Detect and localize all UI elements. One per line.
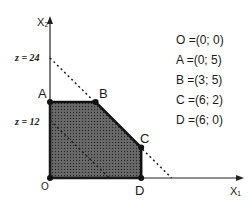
legend-item-b: B =(3; 5) bbox=[176, 70, 224, 90]
feasible-region bbox=[50, 102, 141, 178]
vertex-point-a bbox=[47, 99, 53, 105]
z24-label: z = 24 bbox=[14, 52, 40, 63]
legend-item-c: C =(6; 2) bbox=[176, 90, 224, 110]
vertex-legend: O =(0; 0) A =(0; 5) B =(3; 5) C =(6; 2) … bbox=[176, 30, 224, 130]
legend-item-o: O =(0; 0) bbox=[176, 30, 224, 50]
vertex-point-d bbox=[138, 175, 144, 181]
vertex-label-d: D bbox=[135, 183, 144, 198]
vertex-label-o: O bbox=[41, 181, 49, 192]
legend-item-a: A =(0; 5) bbox=[176, 50, 224, 70]
vertex-label-c: C bbox=[140, 131, 149, 146]
x-axis-label: X₁ bbox=[230, 185, 241, 197]
vertex-point-b bbox=[93, 99, 99, 105]
vertex-label-b: B bbox=[99, 86, 108, 101]
z12-label: z = 12 bbox=[14, 116, 40, 127]
vertex-label-a: A bbox=[38, 86, 47, 101]
legend-item-d: D =(6; 0) bbox=[176, 110, 224, 130]
y-axis-label: X₂ bbox=[37, 16, 49, 28]
x-axis-arrow-icon bbox=[236, 175, 244, 181]
